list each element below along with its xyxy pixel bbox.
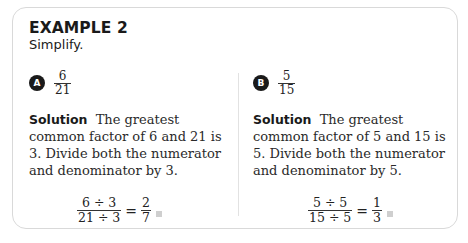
part-a: A 6 21 Solution The greatest common fact… <box>29 70 229 179</box>
problem-fraction: 5 15 <box>278 71 295 96</box>
equation-right-numerator: 1 <box>372 197 382 210</box>
part-b-problem: B 5 15 <box>253 70 458 96</box>
end-square-icon <box>387 211 393 217</box>
equation-left-denominator: 15 ÷ 5 <box>308 210 352 224</box>
part-b: B 5 15 Solution The greatest common fact… <box>253 70 458 179</box>
equals-sign: = <box>125 203 137 219</box>
example-instruction: Simplify. <box>29 37 83 52</box>
fraction-denominator: 15 <box>278 83 295 96</box>
solution-label: Solution <box>29 112 88 127</box>
badge-b-icon: B <box>253 75 269 91</box>
end-square-icon <box>156 211 162 217</box>
part-b-equation: 5 ÷ 5 15 ÷ 5 = 1 3 <box>308 197 393 224</box>
solution-paragraph: Solution The greatest common factor of 6… <box>29 111 229 179</box>
equation-left-numerator: 6 ÷ 3 <box>81 197 117 210</box>
example-title: EXAMPLE 2 <box>29 19 128 37</box>
part-a-equation: 6 ÷ 3 21 ÷ 3 = 2 7 <box>77 197 162 224</box>
fraction-numerator: 5 <box>282 71 292 83</box>
badge-a-icon: A <box>29 75 45 91</box>
equation-left-numerator: 5 ÷ 5 <box>312 197 348 210</box>
equation-right-fraction: 2 7 <box>141 197 151 224</box>
equation-left-denominator: 21 ÷ 3 <box>77 210 121 224</box>
fraction-numerator: 6 <box>58 71 68 83</box>
column-divider <box>238 73 239 216</box>
part-a-problem: A 6 21 <box>29 70 229 96</box>
equation-right-denominator: 3 <box>372 210 382 224</box>
equals-sign: = <box>356 203 368 219</box>
solution-paragraph: Solution The greatest common factor of 5… <box>253 111 458 179</box>
equation-right-numerator: 2 <box>141 197 151 210</box>
equation-right-fraction: 1 3 <box>372 197 382 224</box>
problem-fraction: 6 21 <box>54 71 71 96</box>
equation-left-fraction: 5 ÷ 5 15 ÷ 5 <box>308 197 352 224</box>
fraction-denominator: 21 <box>54 83 71 96</box>
equation-left-fraction: 6 ÷ 3 21 ÷ 3 <box>77 197 121 224</box>
solution-label: Solution <box>253 112 312 127</box>
equation-right-denominator: 7 <box>141 210 151 224</box>
